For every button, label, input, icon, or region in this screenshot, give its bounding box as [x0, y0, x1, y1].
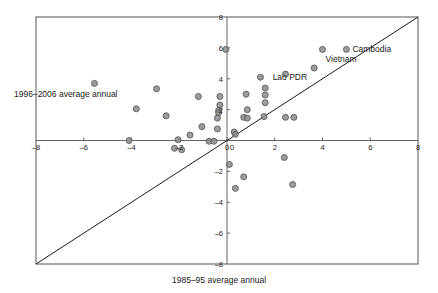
data-point [282, 114, 288, 120]
annotation-lao-pdr: Lao PDR [273, 72, 308, 82]
annotation-cambodia: Cambodia [352, 44, 391, 54]
data-point [223, 46, 229, 52]
data-point [311, 65, 317, 71]
x-tick-label: 2 [273, 143, 277, 152]
data-point [133, 106, 139, 112]
data-point [320, 46, 326, 52]
y-tick-label: –2 [215, 167, 223, 176]
data-point [343, 46, 349, 52]
y-tick-label: –8 [215, 260, 223, 269]
data-point [257, 74, 263, 80]
data-point [217, 94, 223, 100]
y-tick-label: 2 [219, 106, 223, 115]
x-tick-label: 4 [320, 143, 324, 152]
annotation-vietnam: Vietnam [326, 54, 357, 64]
x-tick-label: 6 [368, 143, 372, 152]
data-point [199, 124, 205, 130]
data-point [244, 107, 250, 113]
y-tick-label: –4 [215, 198, 223, 207]
data-point [262, 92, 268, 98]
data-point [211, 138, 217, 144]
x-axis-title: 1985–95 average annual [172, 275, 266, 285]
y-tick-label-zero: 0 [230, 143, 234, 152]
data-point [241, 174, 247, 180]
data-point [232, 131, 238, 137]
data-point [91, 80, 97, 86]
data-point [232, 185, 238, 191]
y-tick-label: –6 [215, 229, 223, 238]
data-point [187, 132, 193, 138]
y-axis-title: 1996–2006 average annual [14, 89, 118, 99]
data-point [226, 161, 232, 167]
x-tick-label: 8 [416, 143, 420, 152]
x-tick-label: –8 [32, 143, 40, 152]
data-point [262, 85, 268, 91]
data-point [154, 86, 160, 92]
data-point [214, 115, 220, 121]
x-tick-label: –6 [80, 143, 88, 152]
data-point [262, 100, 268, 106]
y-tick-label: 4 [219, 75, 223, 84]
scatter-plot-figure: –8–6–4–202468–8–6–4–224680 CambodiaVietn… [0, 0, 438, 293]
data-point [244, 115, 250, 121]
y-tick-label: 8 [219, 13, 223, 22]
data-point [163, 113, 169, 119]
y-tick-label: 6 [219, 44, 223, 53]
data-point [195, 94, 201, 100]
data-point [290, 182, 296, 188]
data-point [281, 154, 287, 160]
data-point [291, 114, 297, 120]
plot-canvas: –8–6–4–202468–8–6–4–224680 CambodiaVietn… [0, 0, 438, 293]
data-point [214, 126, 220, 132]
data-point [261, 114, 267, 120]
point-annotations: CambodiaVietnamLao PDR [273, 44, 392, 82]
x-tick-label: –2 [175, 143, 183, 152]
x-tick-label: 0 [225, 143, 229, 152]
x-tick-label: –4 [127, 143, 135, 152]
data-point [243, 91, 249, 97]
